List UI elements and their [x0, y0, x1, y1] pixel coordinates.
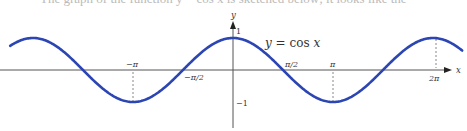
x-tick-pi: π: [329, 60, 336, 69]
x-tick-neg-half-pi: −π/2: [184, 73, 204, 82]
x-axis-arrow-icon: [444, 67, 452, 73]
x-tick-half-pi: π/2: [284, 60, 298, 69]
y-axis-label: y: [230, 10, 236, 20]
equation-label: y = cos x: [264, 36, 320, 50]
y-tick-1: 1: [236, 27, 241, 36]
cosine-graph: y x 1 −1 y = cos x −π −π/2 π/2 π 2π: [0, 0, 467, 131]
x-tick-neg-pi: −π: [126, 60, 139, 69]
x-axis-label: x: [456, 65, 461, 75]
x-tick-two-pi: 2π: [428, 74, 440, 83]
y-tick-neg1: −1: [236, 99, 248, 108]
